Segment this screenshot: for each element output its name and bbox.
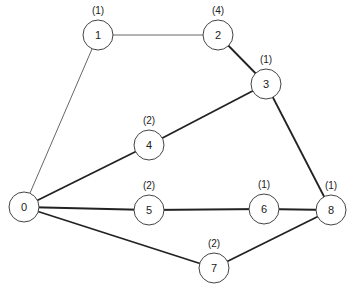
graph-diagram: 01(1)2(4)3(1)4(2)5(2)6(1)7(2)8(1) [0,0,352,293]
node-7: 7(2) [199,238,229,283]
node-label: 6 [261,203,267,215]
node-label: 7 [211,262,217,274]
nodes-layer: 01(1)2(4)3(1)4(2)5(2)6(1)7(2)8(1) [9,5,346,283]
node-weight-label: (1) [258,179,270,190]
edges-layer [24,35,331,268]
node-label: 5 [146,204,152,216]
node-label: 4 [146,139,152,151]
node-6: 6(1) [249,179,279,224]
node-3: 3(1) [251,54,281,99]
node-1: 1(1) [83,5,113,50]
node-label: 1 [95,29,101,41]
node-weight-label: (1) [325,180,337,191]
node-label: 8 [328,204,334,216]
edge-5-6 [149,209,264,210]
node-weight-label: (1) [92,5,104,16]
node-5: 5(2) [134,180,164,225]
node-label: 2 [215,29,221,41]
edge-0-5 [24,207,149,210]
node-2: 2(4) [203,5,233,50]
node-weight-label: (2) [143,115,155,126]
node-label: 3 [263,78,269,90]
edge-0-7 [24,207,214,268]
node-weight-label: (2) [143,180,155,191]
edge-3-8 [266,84,331,210]
edge-0-1 [24,35,98,207]
edge-3-4 [149,84,266,145]
node-label: 0 [21,201,27,213]
node-0: 0 [9,192,39,222]
node-4: 4(2) [134,115,164,160]
edge-4-0 [24,145,149,207]
node-weight-label: (4) [212,5,224,16]
node-weight-label: (1) [260,54,272,65]
node-weight-label: (2) [208,238,220,249]
node-8: 8(1) [316,180,346,225]
